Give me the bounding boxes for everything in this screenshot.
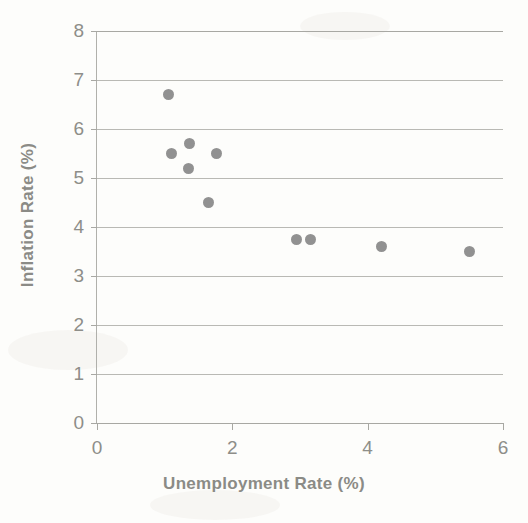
x-tick-label-4: 4	[348, 438, 388, 457]
data-point	[183, 163, 194, 174]
data-point	[464, 246, 475, 257]
y-tick-label-7: 7	[44, 70, 84, 89]
x-tick-label-0: 0	[77, 438, 117, 457]
y-tick-label-1: 1	[44, 364, 84, 383]
x-tick-label-2: 2	[212, 438, 252, 457]
data-point	[163, 89, 174, 100]
data-point	[166, 148, 177, 159]
y-tick-label-8: 8	[44, 21, 84, 40]
x-tick-6	[503, 423, 504, 430]
y-tick-label-4: 4	[44, 217, 84, 236]
x-axis-title: Unemployment Rate (%)	[0, 474, 528, 494]
data-point	[203, 197, 214, 208]
scatter-chart-figure: 012345678 0246 Unemployment Rate (%) Inf…	[0, 0, 528, 523]
gridline-y-4	[97, 227, 503, 228]
gridline-y-0	[97, 423, 503, 424]
gridline-y-5	[97, 178, 503, 179]
plot-area	[97, 31, 503, 423]
x-tick-label-6: 6	[483, 438, 523, 457]
gridline-y-8	[97, 31, 503, 32]
x-tick-2	[232, 423, 233, 430]
scan-artifact	[150, 490, 280, 520]
data-point	[184, 138, 195, 149]
gridline-y-1	[97, 374, 503, 375]
y-tick-label-3: 3	[44, 266, 84, 285]
gridline-y-3	[97, 276, 503, 277]
data-point	[211, 148, 222, 159]
data-point	[305, 234, 316, 245]
gridline-y-2	[97, 325, 503, 326]
y-axis-title: Inflation Rate (%)	[18, 95, 38, 335]
gridline-y-7	[97, 80, 503, 81]
y-tick-label-6: 6	[44, 119, 84, 138]
x-tick-4	[368, 423, 369, 430]
data-point	[291, 234, 302, 245]
y-tick-label-0: 0	[44, 413, 84, 432]
data-point	[376, 241, 387, 252]
gridline-y-6	[97, 129, 503, 130]
y-tick-label-5: 5	[44, 168, 84, 187]
y-tick-label-2: 2	[44, 315, 84, 334]
x-tick-0	[97, 423, 98, 430]
